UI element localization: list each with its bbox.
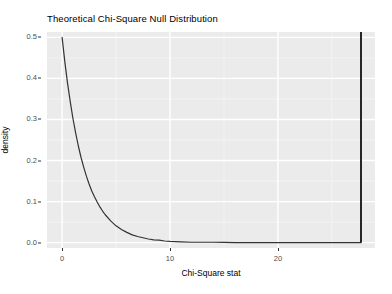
chart-canvas: Theoretical Chi-Square Null Distribution… [0,0,392,294]
y-tick-label: 0.4 [27,75,37,83]
y-tick-mark [38,160,41,161]
x-axis-title: Chi-Square stat [47,268,375,278]
x-tick-label: 0 [60,255,64,263]
y-tick-mark [38,119,41,120]
chart-title: Theoretical Chi-Square Null Distribution [47,13,218,24]
plot-panel [47,32,375,248]
y-tick-label: 0.2 [27,157,37,165]
y-tick-mark [38,78,41,79]
x-tick-label: 10 [166,255,174,263]
x-tick-mark [62,248,63,251]
y-tick-label: 0.0 [27,239,37,247]
y-tick-mark [38,201,41,202]
x-axis-tick-labels: 01020 [47,248,375,268]
y-tick-label: 0.5 [27,34,37,42]
y-tick-label: 0.3 [27,116,37,124]
y-tick-label: 0.1 [27,198,37,206]
y-tick-mark [38,242,41,243]
x-tick-mark [170,248,171,251]
y-tick-mark [38,37,41,38]
x-tick-label: 20 [274,255,282,263]
x-tick-mark [278,248,279,251]
data-layer [47,32,375,248]
y-axis-title: density [0,32,12,248]
